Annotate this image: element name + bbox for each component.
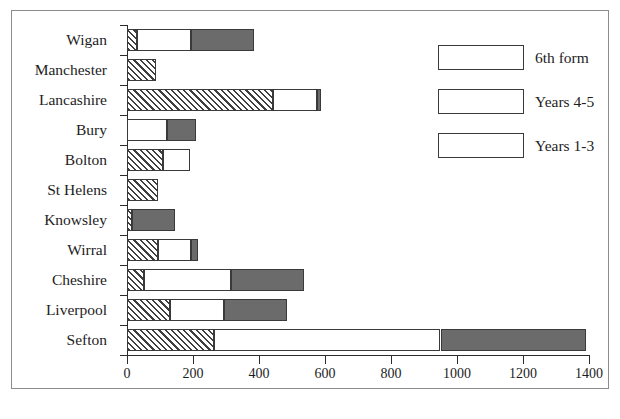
legend-label: Years 4-5 bbox=[535, 89, 594, 114]
x-axis-tick-label: 1000 bbox=[427, 366, 487, 382]
bar-segment bbox=[167, 119, 196, 141]
y-axis-tick bbox=[120, 25, 128, 26]
y-category-label: Liverpool bbox=[12, 295, 116, 325]
x-axis-tick bbox=[457, 355, 458, 364]
bar-segment bbox=[127, 29, 137, 51]
x-axis-tick-label: 200 bbox=[163, 366, 223, 382]
x-axis-tick-label: 0 bbox=[97, 366, 157, 382]
bar-segment bbox=[127, 119, 167, 141]
bar-segment bbox=[127, 59, 156, 81]
y-axis-tick bbox=[120, 205, 128, 206]
bar-segment bbox=[158, 239, 191, 261]
bar-segment bbox=[191, 239, 198, 261]
legend-swatch-6th-form bbox=[438, 45, 524, 70]
bar-segment bbox=[127, 89, 273, 111]
bar-segment bbox=[163, 149, 189, 171]
y-axis-tick bbox=[120, 145, 128, 146]
y-axis-tick bbox=[120, 325, 128, 326]
bar-segment bbox=[137, 29, 191, 51]
x-axis-tick bbox=[259, 355, 260, 364]
plot-area: Wigan Manchester Lancashire Bury Bolton … bbox=[12, 11, 608, 388]
x-axis-tick bbox=[193, 355, 194, 364]
legend: 6th form Years 4-5 Years 1-3 bbox=[438, 39, 608, 171]
bar-segment bbox=[127, 149, 163, 171]
bar-segment bbox=[127, 299, 170, 321]
chart-root: Wigan Manchester Lancashire Bury Bolton … bbox=[0, 0, 620, 419]
x-axis-tick bbox=[589, 355, 590, 364]
x-axis-line bbox=[127, 355, 589, 356]
y-axis-tick bbox=[120, 235, 128, 236]
x-axis-tick bbox=[523, 355, 524, 364]
bar-segment bbox=[191, 29, 254, 51]
x-axis-tick-label: 1400 bbox=[559, 366, 619, 382]
bar-segment bbox=[273, 89, 317, 111]
y-axis-tick bbox=[120, 85, 128, 86]
y-axis-tick bbox=[120, 265, 128, 266]
y-category-label: Lancashire bbox=[12, 85, 116, 115]
legend-item: Years 1-3 bbox=[438, 127, 608, 171]
y-category-label: Manchester bbox=[12, 55, 116, 85]
legend-label: 6th form bbox=[535, 45, 589, 70]
legend-label: Years 1-3 bbox=[535, 133, 594, 158]
x-axis-tick bbox=[391, 355, 392, 364]
y-category-label: St Helens bbox=[12, 175, 116, 205]
bar-segment bbox=[441, 329, 586, 351]
bar-segment bbox=[224, 299, 287, 321]
x-axis-tick-label: 600 bbox=[295, 366, 355, 382]
x-axis-tick-label: 400 bbox=[229, 366, 289, 382]
legend-swatch-years-4-5 bbox=[438, 89, 524, 114]
y-category-label: Cheshire bbox=[12, 265, 116, 295]
y-axis-tick bbox=[120, 115, 128, 116]
bar-segment bbox=[127, 329, 214, 351]
y-axis-category-labels: Wigan Manchester Lancashire Bury Bolton … bbox=[12, 25, 116, 355]
bar-segment bbox=[132, 209, 175, 231]
x-axis-tick-label: 1200 bbox=[493, 366, 553, 382]
y-category-label: Bolton bbox=[12, 145, 116, 175]
bar-segment bbox=[170, 299, 224, 321]
bar-segment bbox=[127, 239, 158, 261]
y-category-label: Bury bbox=[12, 115, 116, 145]
bar-segment bbox=[231, 269, 304, 291]
legend-swatch-years-1-3 bbox=[438, 133, 524, 158]
x-axis-tick bbox=[325, 355, 326, 364]
x-axis-tick bbox=[127, 355, 128, 364]
bar-segment bbox=[127, 269, 144, 291]
y-axis-tick bbox=[120, 175, 128, 176]
y-category-label: Sefton bbox=[12, 325, 116, 355]
y-category-label: Wigan bbox=[12, 25, 116, 55]
y-axis-tick bbox=[120, 295, 128, 296]
bar-segment bbox=[144, 269, 231, 291]
bar-segment bbox=[317, 89, 321, 111]
y-category-label: Wirral bbox=[12, 235, 116, 265]
bar-segment bbox=[127, 179, 158, 201]
y-axis-tick bbox=[120, 55, 128, 56]
legend-item: 6th form bbox=[438, 39, 608, 83]
legend-item: Years 4-5 bbox=[438, 83, 608, 127]
y-category-label: Knowsley bbox=[12, 205, 116, 235]
x-axis-tick-label: 800 bbox=[361, 366, 421, 382]
bar-segment bbox=[214, 329, 440, 351]
chart-frame: Wigan Manchester Lancashire Bury Bolton … bbox=[11, 10, 609, 389]
